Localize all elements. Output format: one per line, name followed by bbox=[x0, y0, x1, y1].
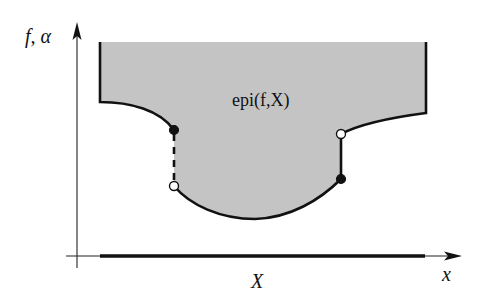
left-jump-lower-open-dot bbox=[170, 182, 179, 191]
epigraph-diagram bbox=[0, 0, 490, 300]
domain-set-label: X bbox=[251, 270, 263, 293]
epigraph-region bbox=[100, 42, 426, 219]
epigraph-label: epi(f,X) bbox=[232, 90, 289, 111]
x-axis-label: x bbox=[442, 263, 451, 286]
right-jump-upper-open-dot bbox=[337, 130, 346, 139]
right-jump-lower-filled-dot bbox=[337, 175, 346, 184]
y-axis-label: f, α bbox=[25, 25, 51, 48]
left-jump-upper-filled-dot bbox=[170, 126, 179, 135]
